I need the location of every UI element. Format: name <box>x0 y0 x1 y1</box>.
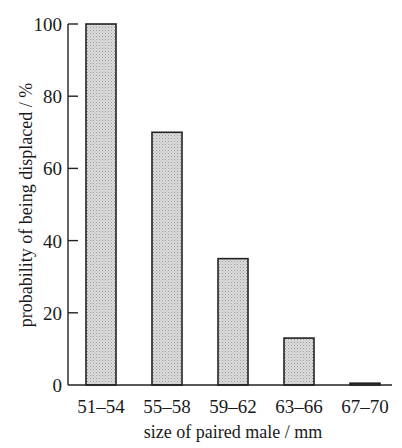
x-tick-label: 51–54 <box>77 396 125 417</box>
x-axis-title: size of paired male / mm <box>144 422 322 442</box>
y-tick-label: 40 <box>43 231 62 252</box>
bars-group <box>86 24 380 385</box>
labels-group: 02040608010051–5455–5859–6263–6667–70siz… <box>16 14 389 442</box>
y-tick-label: 60 <box>43 158 62 179</box>
y-axis-title: probability of being displaced / % <box>16 83 36 327</box>
bar-55–58 <box>152 132 182 385</box>
bar-chart: 02040608010051–5455–5859–6263–6667–70siz… <box>0 0 402 448</box>
bar-59–62 <box>218 259 248 385</box>
x-tick-label: 55–58 <box>143 396 191 417</box>
y-tick-label: 20 <box>43 303 62 324</box>
y-tick-label: 100 <box>34 14 63 35</box>
x-tick-label: 63–66 <box>275 396 323 417</box>
x-tick-label: 59–62 <box>209 396 257 417</box>
x-tick-label: 67–70 <box>341 396 389 417</box>
bar-51–54 <box>86 24 116 385</box>
bar-63–66 <box>284 338 314 385</box>
y-tick-label: 0 <box>53 375 63 396</box>
y-tick-label: 80 <box>43 86 62 107</box>
